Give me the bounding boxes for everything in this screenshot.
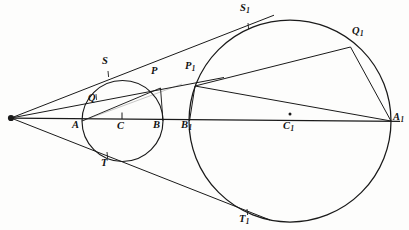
label-S1: S1 [240,3,250,14]
lower-tangent-line [11,118,270,220]
label-C1: C1 [283,121,294,132]
label-T: T [101,158,108,169]
tick-S1 [248,23,249,29]
apex-point-dot [8,115,14,121]
label-C: C [117,121,124,132]
chord-Q1-A1 [351,47,392,121]
central-axis [11,118,400,121]
chord-P1-Q1 [195,47,351,86]
chord-P1-A1 [195,86,391,121]
label-T1: T1 [239,214,249,225]
label-P: P [151,66,158,77]
label-Q: Q [88,93,96,104]
label-B1: B1 [181,120,192,131]
label-Q1: Q1 [352,26,363,37]
label-A: A [72,120,79,131]
chord-P-B [161,88,164,121]
geometry-diagram: A B C S T P Q A1 B1 C1 S1 T1 P1 Q1 [0,0,409,230]
center-dot-C1 [289,113,292,116]
tick-Q [96,94,97,100]
label-B: B [153,120,160,131]
label-A1: A1 [393,112,404,123]
figure-canvas [0,0,409,230]
label-P1: P1 [185,61,195,72]
tick-S [108,71,109,77]
upper-tangent-line [11,15,274,118]
label-S: S [102,56,108,67]
